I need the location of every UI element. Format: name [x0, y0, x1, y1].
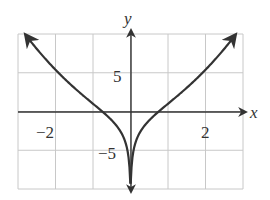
y-tick-label-5: 5	[113, 67, 122, 86]
curve-right-branch	[131, 35, 236, 184]
x-tick-label-2: 2	[201, 123, 210, 142]
y-tick-label-neg5: −5	[98, 144, 116, 163]
x-tick-label-neg2: −2	[36, 123, 54, 142]
x-axis-label: x	[249, 103, 258, 122]
function-graph: x y −2 2 5 −5	[0, 0, 270, 200]
y-axis-label: y	[122, 9, 132, 28]
